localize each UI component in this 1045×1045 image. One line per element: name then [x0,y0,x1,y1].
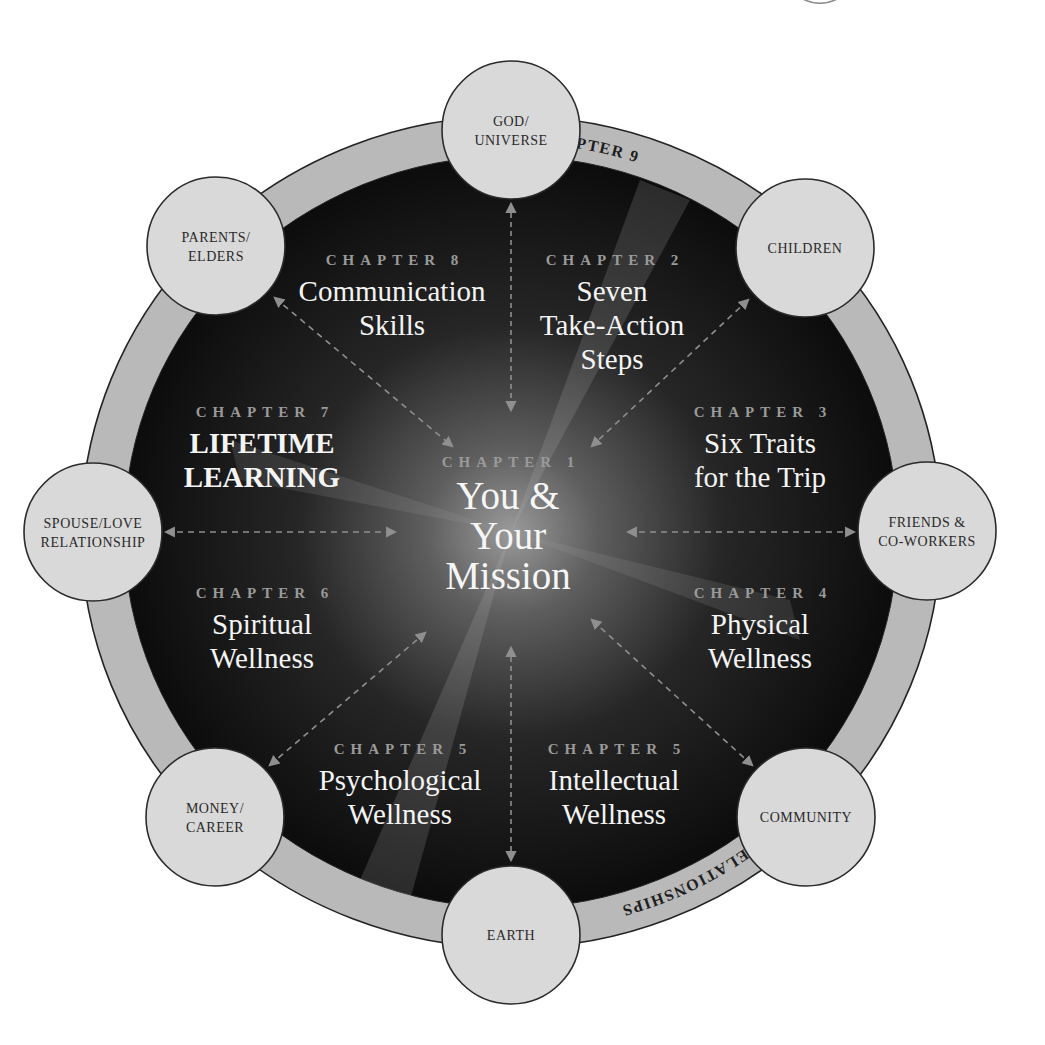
chapter-label: CHAPTER 5 [548,741,687,757]
chapter-label: CHAPTER 6 [196,585,335,601]
node-label-line: COMMUNITY [760,810,852,825]
node-label-line: RELATIONSHIP [41,535,146,550]
node-god-universe: GOD/UNIVERSE [442,61,580,199]
cropped-glyph-fragment [803,0,837,4]
node-circle [24,463,162,601]
center-title-line: Mission [445,554,571,597]
node-money-career: MONEY/CAREER [146,748,284,886]
node-label-line: ELDERS [188,249,244,264]
wheel-svg: CHAPTER 9RELATIONSHIPS CHAPTER 8Communic… [0,0,1045,1045]
chapter-label: CHAPTER 7 [196,404,335,420]
chapter-title-line: Skills [359,309,425,341]
chapter-label: CHAPTER 8 [326,252,465,268]
node-circle [858,462,996,600]
chapter-title-line: Physical [711,608,809,640]
node-label-line: SPOUSE/LOVE [44,516,143,531]
chapter-title-line: for the Trip [694,461,826,493]
node-circle [442,61,580,199]
center-title-line: You & [456,474,559,517]
chapter-title-line: Six Traits [704,427,816,459]
chapter-label: CHAPTER 4 [694,585,833,601]
chapter-title-line: Psychological [319,764,482,796]
chapter-label: CHAPTER 3 [694,404,833,420]
chapter-title-line: Take-Action [540,309,685,341]
chapter-label: CHAPTER 2 [546,252,685,268]
chapter-title-line: Communication [299,275,486,307]
chapter-title-line: LIFETIME [189,427,334,459]
chapter-5-intel-block: CHAPTER 5IntellectualWellness [548,741,687,830]
chapter-7-block: CHAPTER 7LIFETIMELEARNING [184,404,340,493]
node-label-line: FRIENDS & [888,515,965,530]
node-label-line: CO-WORKERS [878,534,976,549]
center-title-line: Your [470,514,546,557]
node-parents-elders: PARENTS/ELDERS [147,177,285,315]
node-community: COMMUNITY [737,748,875,886]
chapter-title-line: LEARNING [184,461,340,493]
chapter-label: CHAPTER 5 [334,741,473,757]
chapter-1-label: CHAPTER 1 [442,454,581,470]
node-circle [146,748,284,886]
chapter-title-line: Intellectual [549,764,679,796]
chapter-title-line: Spiritual [212,608,312,640]
node-children: CHILDREN [736,179,874,317]
chapter-title-line: Wellness [562,798,666,830]
chapter-title-line: Wellness [348,798,452,830]
node-spouse-love-relationship: SPOUSE/LOVERELATIONSHIP [24,463,162,601]
node-friends-coworkers: FRIENDS &CO-WORKERS [858,462,996,600]
node-earth: EARTH [442,866,580,1004]
mission-wheel-diagram: CHAPTER 9RELATIONSHIPS CHAPTER 8Communic… [0,0,1045,1045]
chapter-title-line: Steps [581,343,644,375]
node-label-line: GOD/ [493,114,529,129]
chapter-title-line: Wellness [210,642,314,674]
node-label-line: EARTH [487,928,535,943]
node-label-line: PARENTS/ [182,230,251,245]
chapter-3-block: CHAPTER 3Six Traitsfor the Trip [694,404,833,493]
node-label-line: MONEY/ [186,801,244,816]
node-label-line: UNIVERSE [474,133,547,148]
chapter-title-line: Wellness [708,642,812,674]
node-label-line: CHILDREN [768,241,843,256]
chapter-title-line: Seven [577,275,648,307]
node-label-line: CAREER [186,820,244,835]
node-circle [147,177,285,315]
